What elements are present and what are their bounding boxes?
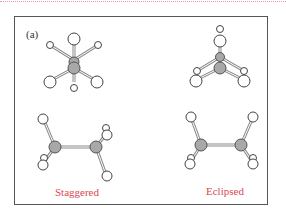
eclipsed-side-view [185, 112, 258, 169]
staggered-caption: Staggered [55, 186, 99, 198]
molecule-diagram: .b{stroke:#8a8a8a;stroke-width:3;fill:no… [0, 0, 286, 216]
staggered-side-view [38, 114, 112, 181]
eclipsed-end-view [190, 26, 250, 88]
staggered-end-view [44, 33, 103, 92]
eclipsed-caption: Eclipsed [206, 185, 244, 197]
